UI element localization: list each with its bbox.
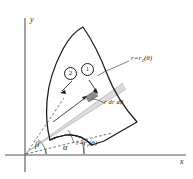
area-element-label: r dr dθ [104, 99, 123, 106]
angle-beta-label: β [35, 140, 39, 149]
callout-2-circle: 2 [64, 67, 77, 80]
figure-canvas [0, 0, 193, 179]
wedge-edge-upper [27, 83, 123, 152]
x-axis-label: x [180, 158, 184, 166]
inner-curve-label: r=r1(θ) [76, 140, 97, 148]
leader-outer-curve [104, 61, 129, 72]
callout-1-circle: 1 [81, 63, 94, 76]
inner-curve-arg: (θ) [89, 139, 97, 147]
leader-outer-curve-b [97, 72, 104, 76]
ray-beta-dashed [26, 98, 64, 154]
outer-curve-label: r=r2(θ) [131, 55, 152, 63]
angle-alpha-label: α [63, 143, 67, 152]
leader-inner-curve [68, 130, 74, 143]
y-axis-label: y [30, 16, 34, 24]
callout-2-arrow-line [62, 81, 72, 91]
callout-arrows-group [53, 80, 98, 122]
outer-curve-arg: (θ) [144, 54, 152, 62]
polar-region-figure: y x r=r2(θ) r=r1(θ) r dr dθ β α 1 2 [0, 0, 193, 179]
